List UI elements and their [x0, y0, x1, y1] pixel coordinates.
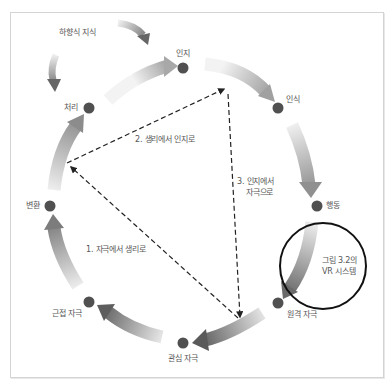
edge-label-physiology-to-cognition: 2. 생리에서 인지로: [135, 135, 195, 145]
dashed-edge-stimulus-to-physiology: [71, 167, 238, 318]
node-processing: [84, 103, 95, 114]
node-label-processing: 처리: [64, 103, 78, 113]
node-transduction: [45, 201, 56, 212]
node-label-perception: 인식: [286, 95, 300, 105]
perception-cycle-diagram: [0, 0, 392, 390]
node-label-transduction: 변환: [26, 201, 40, 211]
top-down-arrow-to-processing: [47, 55, 61, 92]
node-label-action: 행동: [326, 201, 340, 211]
cycle-arrow-perception-to-action: [292, 125, 322, 198]
node-label-proximal: 근접 자극: [52, 309, 82, 319]
edge-label-stimulus-to-physiology: 1. 자극에서 생리로: [86, 245, 146, 255]
edge-label-cognition-to-stimulus-line2: 자극으로: [246, 188, 273, 198]
cycle-arrow-proximal-to-transduction: [44, 214, 78, 286]
node-attended: [178, 338, 189, 349]
cycle-arrow-processing-to-cognition: [108, 56, 178, 100]
node-perception: [273, 103, 284, 114]
node-label-cognition: 인지: [176, 49, 190, 59]
node-label-attended: 관심 자극: [168, 354, 198, 364]
cycle-arrow-transduction-to-processing: [54, 114, 84, 190]
node-cognition: [178, 63, 189, 74]
dashed-edge-cognition-to-stimulus: [228, 94, 240, 317]
cycle-arrow-distal-to-attended: [192, 313, 262, 351]
dashed-edge-physiology-to-cognition: [67, 89, 224, 163]
node-label-distal: 원격 자극: [287, 310, 317, 320]
node-proximal: [84, 297, 95, 308]
top-down-arrow-to-cognition: [118, 23, 150, 45]
vr-system-label-line2: VR 시스템: [322, 267, 355, 277]
node-distal: [273, 298, 284, 309]
vr-system-label-line1: 그림 3.2의: [322, 256, 357, 266]
cycle-arrow-cognition-to-perception: [205, 64, 275, 102]
top-down-knowledge-label: 하향식 지식: [59, 28, 95, 38]
cycle-arrow-attended-to-proximal: [97, 304, 162, 337]
nodes: [45, 63, 323, 349]
node-action: [312, 201, 323, 212]
vr-system-highlight-circle: [280, 223, 366, 309]
edge-label-cognition-to-stimulus-line1: 3. 인지에서: [237, 177, 274, 187]
